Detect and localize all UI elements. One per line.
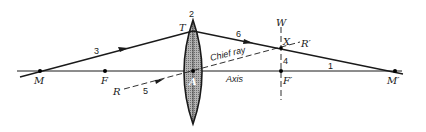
label-M: M xyxy=(33,75,45,86)
point-M-prime xyxy=(393,69,397,73)
ray-number-4: 4 xyxy=(283,56,288,66)
label-W: W xyxy=(276,17,287,28)
point-F xyxy=(103,69,107,73)
optics-diagram: M F A T R W X R′ F′ M′ 1 2 3 4 5 6 Chief… xyxy=(0,0,426,132)
label-A: A xyxy=(188,76,197,87)
ray-number-3: 3 xyxy=(94,46,99,56)
point-A xyxy=(191,69,195,73)
label-M-prime: M′ xyxy=(386,75,400,86)
label-T: T xyxy=(179,22,187,33)
label-X: X xyxy=(282,36,291,47)
label-axis: Axis xyxy=(225,74,244,84)
arrow-ray-3-icon xyxy=(118,47,128,52)
label-R: R xyxy=(112,86,121,97)
label-F-prime: F′ xyxy=(282,75,293,86)
point-F-prime xyxy=(279,69,283,73)
label-F: F xyxy=(100,75,109,86)
chief-ray-dashed xyxy=(124,42,300,89)
label-R-prime: R′ xyxy=(300,38,312,49)
point-M xyxy=(38,69,42,73)
label-chief-ray: Chief ray xyxy=(209,44,247,63)
ray-number-2: 2 xyxy=(189,9,194,19)
ray-number-6: 6 xyxy=(236,29,241,39)
arrow-ray-5-icon xyxy=(155,79,164,84)
ray-number-1: 1 xyxy=(328,61,333,71)
ray-number-5: 5 xyxy=(143,86,148,96)
